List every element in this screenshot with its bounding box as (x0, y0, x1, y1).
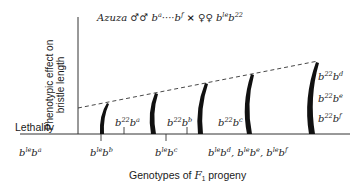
male-allele-end: bf (175, 12, 184, 23)
strain-name: Azuza (97, 12, 127, 23)
lower-genotype-label: bleba (19, 148, 42, 158)
cross-symbol: × (187, 12, 195, 23)
curve-bar-2 (150, 93, 158, 134)
male-symbol: ♂♂ (130, 12, 148, 23)
upper-genotype-label: b22ba (115, 118, 140, 128)
cross-title: Azuza ♂♂ ba····bf × ♀♀ bleb22 (97, 13, 243, 23)
y-axis-title: Phenotypic effect on bristle length (44, 30, 66, 130)
upper-genotype-label: b22bb (167, 118, 192, 128)
upper-genotype-label: b22be (318, 94, 343, 104)
lower-genotype-label-group: blebd, blebe, blebf (208, 148, 287, 158)
lethality-label: Lethality (15, 122, 54, 133)
upper-genotype-label: b22bc (218, 118, 243, 128)
lower-genotype-label: blebc (155, 148, 177, 158)
x-axis-title: Genotypes of F1 progeny (129, 170, 246, 181)
male-allele-start: ba (151, 12, 161, 23)
dashed-trend-line (78, 61, 318, 108)
female-genotype: bleb22 (216, 12, 243, 23)
y-axis-title-line2: bristle length (55, 30, 66, 140)
upper-genotype-label: b22bd (318, 72, 343, 82)
upper-genotype-label: b22bf (318, 114, 342, 124)
curve-bar-3 (197, 83, 208, 134)
ellipsis: ···· (162, 12, 175, 23)
curve-bar-4 (245, 74, 254, 134)
curve-bar-1 (100, 103, 109, 134)
lower-genotype-label: blebb (90, 148, 113, 158)
female-symbol: ♀♀ (198, 12, 213, 23)
